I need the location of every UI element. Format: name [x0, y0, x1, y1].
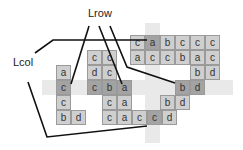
lcol-pointer-1 — [35, 40, 147, 53]
lrow-pointer-3 — [110, 26, 175, 83]
lcol-label: Lcol — [13, 56, 33, 68]
diagram-canvas: cabcccaccbacbdccadcccbabdccabdbdcaccd Lr… — [0, 0, 243, 150]
lrow-pointer-1 — [71, 26, 89, 84]
pointer-lines — [0, 0, 243, 150]
lcol-pointer-2 — [28, 82, 147, 137]
lrow-pointer-2 — [99, 26, 122, 84]
lrow-label: Lrow — [88, 7, 112, 19]
